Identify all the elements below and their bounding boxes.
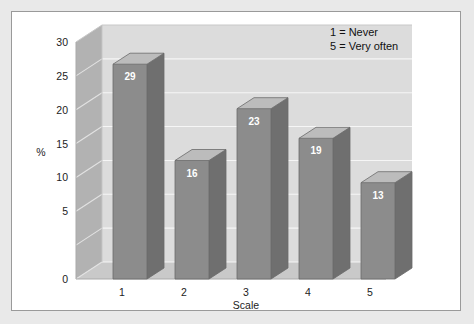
bar-group-3[interactable]: 23	[237, 98, 288, 279]
bar-group-5[interactable]: 13	[361, 172, 412, 279]
y-tick-10: 10	[56, 171, 68, 183]
y-tick-20: 20	[56, 104, 68, 116]
bar-label-3: 23	[248, 116, 260, 127]
legend-line-1: 1 = Never	[330, 26, 378, 38]
x-axis-tick-labels: 1 2 3 4 5	[119, 286, 373, 298]
bar-front-1	[113, 64, 147, 279]
bar-label-4: 19	[310, 145, 322, 156]
y-axis-tick-labels: 30 25 20 15 10 5 0	[56, 36, 68, 285]
bar-label-1: 29	[124, 71, 136, 82]
bar-label-5: 13	[372, 190, 384, 201]
bar-side-5	[395, 172, 412, 279]
bar-front-4	[299, 138, 333, 279]
bar-group-4[interactable]: 19	[299, 127, 350, 279]
bar-side-4	[333, 127, 350, 279]
y-tick-15: 15	[56, 138, 68, 150]
bar-label-2: 16	[186, 168, 198, 179]
figure-frame: 29 16	[11, 11, 461, 311]
x-tick-1: 1	[119, 286, 125, 298]
chart-svg: 29 16	[12, 12, 462, 312]
x-tick-5: 5	[367, 286, 373, 298]
screenshot-page: 29 16	[0, 0, 474, 324]
y-tick-5: 5	[62, 205, 68, 217]
x-axis-title: Scale	[233, 299, 259, 311]
bar-front-3	[237, 109, 271, 279]
legend-line-2: 5 = Very often	[330, 40, 398, 52]
x-tick-2: 2	[181, 286, 187, 298]
y-tick-0: 0	[62, 273, 68, 285]
bar-side-1	[147, 53, 164, 279]
bar-side-2	[209, 150, 226, 280]
y-axis-title: %	[36, 146, 45, 158]
y-tick-25: 25	[56, 70, 68, 82]
plot-left-wall	[76, 25, 102, 279]
bar-side-3	[271, 98, 288, 279]
bar-group-2[interactable]: 16	[175, 150, 226, 280]
y-tick-30: 30	[56, 36, 68, 48]
x-tick-4: 4	[305, 286, 311, 298]
x-tick-3: 3	[243, 286, 249, 298]
bar-group-1[interactable]: 29	[113, 53, 164, 279]
bar-chart: 29 16	[12, 12, 462, 312]
